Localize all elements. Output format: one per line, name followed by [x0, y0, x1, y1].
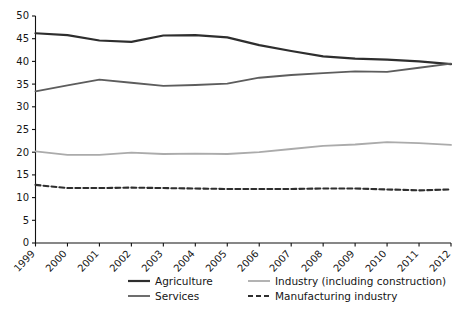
legend-label-agriculture: Agriculture	[155, 275, 213, 287]
legend-label-industry-including-construction: Industry (including construction)	[275, 275, 446, 287]
y-tick-label: 45	[16, 33, 29, 44]
line-chart: 05101520253035404550 1999200020012002200…	[0, 0, 459, 312]
x-tick-label: 2007	[267, 248, 292, 274]
series-line-manufacturing-industry	[36, 185, 452, 190]
x-tick-label: 2009	[331, 248, 356, 274]
y-tick-label: 5	[23, 215, 29, 226]
series-lines	[36, 33, 452, 190]
y-tick-label: 15	[16, 169, 29, 180]
x-tick-label: 2000	[44, 248, 69, 274]
x-tick-label: 2008	[299, 248, 324, 274]
x-tick-label: 2003	[139, 248, 164, 274]
x-axis-group: 1999200020012002200320042005200620072008…	[12, 243, 453, 274]
y-tick-label: 40	[16, 56, 29, 67]
x-tick-label: 1999	[12, 248, 37, 274]
y-tick-label: 30	[16, 101, 29, 112]
x-tick-label: 2011	[395, 248, 420, 274]
x-tick-label: 2001	[75, 248, 100, 274]
series-line-services	[36, 64, 452, 92]
x-tick-label: 2006	[235, 248, 260, 274]
y-tick-label: 25	[16, 124, 29, 135]
x-tick-label: 2010	[363, 248, 388, 274]
y-tick-label: 35	[16, 79, 29, 90]
x-tick-label: 2002	[107, 248, 132, 274]
y-axis-group: 05101520253035404550	[16, 10, 35, 248]
y-tick-label: 10	[16, 192, 29, 203]
y-tick-label: 20	[16, 147, 29, 158]
x-tick-label: 2004	[171, 248, 196, 274]
y-tick-label: 50	[16, 10, 29, 21]
x-tick-label: 2012	[427, 248, 452, 274]
y-tick-labels: 05101520253035404550	[16, 10, 29, 248]
legend-label-manufacturing-industry: Manufacturing industry	[275, 290, 397, 302]
chart-canvas: 05101520253035404550 1999200020012002200…	[0, 0, 459, 312]
legend-label-services: Services	[155, 290, 199, 302]
series-line-industry-including-construction	[36, 142, 452, 155]
chart-legend: AgricultureIndustry (including construct…	[128, 275, 446, 302]
series-line-agriculture	[36, 33, 452, 64]
y-tick-label: 0	[23, 237, 29, 248]
x-tick-labels: 1999200020012002200320042005200620072008…	[12, 248, 453, 274]
x-tick-label: 2005	[203, 248, 228, 274]
